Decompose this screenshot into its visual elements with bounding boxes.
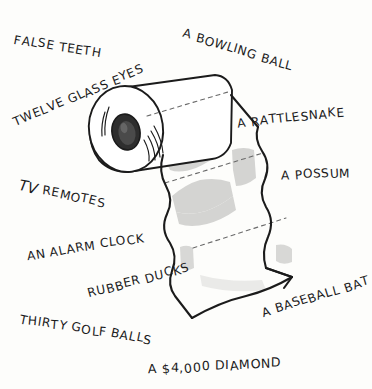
- cartoon-canvas: FALSE TEETH A BOWLING BALL TWELVE GLASS …: [0, 0, 372, 389]
- label-a-possum: A POSSUM: [281, 166, 351, 182]
- label-tv-remotes-lead: TV: [18, 176, 40, 196]
